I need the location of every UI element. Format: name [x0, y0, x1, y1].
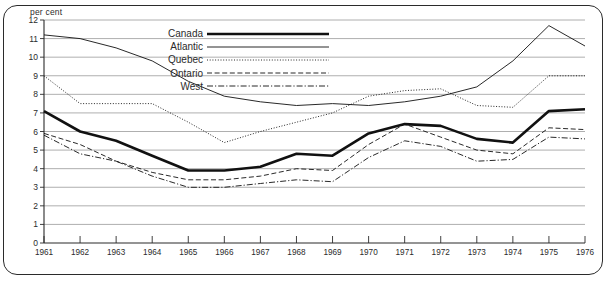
x-axis-tick-label: 1964	[132, 248, 172, 257]
legend-swatch-thin-solid	[207, 42, 329, 52]
x-axis-tick-label: 1965	[168, 248, 208, 257]
legend-swatch-dashed	[207, 68, 329, 78]
legend-swatch-dash-dot	[207, 81, 329, 91]
series-line-west	[44, 135, 585, 187]
legend-label: Quebec	[168, 54, 207, 65]
x-axis-tick-label: 1966	[204, 248, 244, 257]
x-axis-tick-label: 1969	[313, 248, 353, 257]
y-axis-tick-label: 10	[22, 52, 38, 62]
legend-item-quebec: Quebec	[168, 53, 329, 66]
legend-label: West	[180, 81, 207, 92]
x-axis-tick-label: 1974	[493, 248, 533, 257]
x-axis-tick-label: 1968	[276, 248, 316, 257]
x-axis-tick-label: 1972	[421, 248, 461, 257]
legend-label: Ontario	[170, 68, 207, 79]
y-axis-tick-label: 4	[22, 164, 38, 174]
x-axis-tick-label: 1970	[349, 248, 389, 257]
x-axis-tick-label: 1962	[60, 248, 100, 257]
y-axis-tick-label: 11	[22, 34, 38, 44]
y-axis-tick-label: 0	[22, 238, 38, 248]
y-axis-tick-label: 12	[22, 15, 38, 25]
series-line-ontario	[44, 124, 585, 180]
x-axis-tick-label: 1971	[385, 248, 425, 257]
legend-swatch-thick-solid	[207, 29, 329, 39]
y-axis-tick-label: 5	[22, 145, 38, 155]
x-axis-tick-label: 1967	[240, 248, 280, 257]
chart-legend: CanadaAtlanticQuebecOntarioWest	[168, 27, 329, 93]
y-axis-tick-label: 9	[22, 71, 38, 81]
y-axis-tick-label: 2	[22, 201, 38, 211]
x-axis-tick-label: 1973	[457, 248, 497, 257]
legend-label: Canada	[168, 28, 207, 39]
y-axis-tick-label: 1	[22, 219, 38, 229]
x-axis-tick-label: 1961	[24, 248, 64, 257]
x-axis-tick-label: 1963	[96, 248, 136, 257]
legend-label: Atlantic	[170, 41, 207, 52]
y-axis-tick-label: 3	[22, 182, 38, 192]
y-axis-tick-label: 6	[22, 127, 38, 137]
x-axis-tick-label: 1975	[529, 248, 569, 257]
legend-swatch-dotted	[207, 55, 329, 65]
legend-item-ontario: Ontario	[168, 67, 329, 80]
legend-item-atlantic: Atlantic	[168, 40, 329, 53]
series-line-canada	[44, 109, 585, 170]
legend-item-west: West	[168, 80, 329, 93]
y-axis-tick-label: 8	[22, 89, 38, 99]
legend-item-canada: Canada	[168, 27, 329, 40]
y-axis-tick-label: 7	[22, 108, 38, 118]
x-axis-tick-label: 1976	[565, 248, 605, 257]
